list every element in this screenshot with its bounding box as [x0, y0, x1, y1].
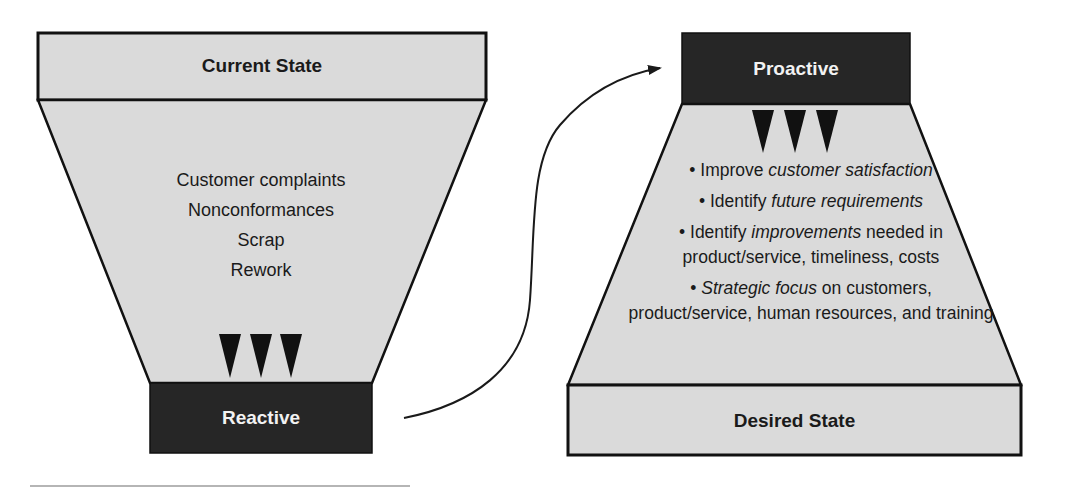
reactive-label: Reactive	[150, 407, 372, 429]
list-item: Rework	[150, 255, 372, 285]
list-item: Customer complaints	[150, 165, 372, 195]
list-item: Nonconformances	[150, 195, 372, 225]
current-state-issues-list: Customer complaints Nonconformances Scra…	[150, 165, 372, 285]
bullet-item: • Identify improvements needed in produc…	[630, 220, 992, 270]
desired-state-label: Desired State	[568, 410, 1021, 432]
bullet-item: • Identify future requirements	[640, 189, 982, 214]
bullet-item: • Strategic focus on customers, product/…	[628, 276, 994, 326]
proactive-label: Proactive	[682, 58, 910, 80]
desired-state-bullets: • Improve customer satisfaction • Identi…	[640, 158, 982, 332]
footer-divider	[30, 485, 410, 487]
bullet-item: • Improve customer satisfaction	[640, 158, 982, 183]
current-state-label: Current State	[38, 55, 486, 77]
list-item: Scrap	[150, 225, 372, 255]
down-triangles-icon	[219, 334, 302, 378]
